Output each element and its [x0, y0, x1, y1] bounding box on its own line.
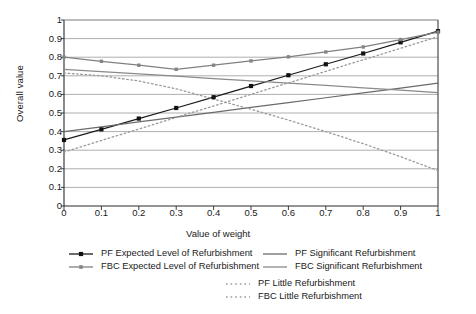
x-tick-label: 0.8: [348, 208, 378, 218]
legend-label: FBC Significant Refurbishment: [295, 261, 422, 272]
series-marker: [249, 59, 252, 62]
chart-container: Overall value Value of weight 00.10.20.3…: [0, 0, 476, 314]
series-marker: [286, 73, 290, 77]
y-tick-label: 0.7: [26, 71, 62, 81]
legend-swatch-icon: [225, 279, 251, 289]
series-marker: [175, 68, 178, 71]
x-tick-label: 0.1: [86, 208, 116, 218]
legend-item[interactable]: FBC Little Refurbishment: [225, 291, 362, 302]
series-marker: [137, 116, 141, 120]
y-tick-label: 0.3: [26, 145, 62, 155]
series-line: [64, 83, 438, 131]
legend-label: FBC Little Refurbishment: [258, 291, 362, 302]
y-tick-label: 0.1: [26, 182, 62, 192]
series-line: [64, 69, 438, 92]
legend-swatch-icon: [225, 292, 251, 302]
series-marker: [99, 127, 103, 131]
y-tick-label: 1: [26, 15, 62, 25]
x-axis-tick-labels: 00.10.20.30.40.50.60.70.80.91: [0, 208, 476, 222]
series-marker: [212, 95, 216, 99]
legend-label: PF Little Refurbishment: [258, 278, 355, 289]
legend-item[interactable]: PF Significant Refurbishment: [262, 248, 415, 259]
series-marker: [100, 60, 103, 63]
legend-label: PF Expected Level of Refurbishment: [101, 248, 252, 259]
legend-swatch-icon: [68, 249, 94, 259]
series-marker: [174, 106, 178, 110]
x-tick-label: 0.9: [386, 208, 416, 218]
series-line: [64, 32, 438, 69]
y-tick-label: 0.8: [26, 52, 62, 62]
series-marker: [62, 56, 65, 59]
legend-swatch-icon: [262, 249, 288, 259]
y-axis-tick-labels: 00.10.20.30.40.50.60.70.80.91: [22, 0, 62, 200]
legend-item[interactable]: PF Little Refurbishment: [225, 278, 355, 289]
series-marker: [362, 45, 365, 48]
y-tick-label: 0.2: [26, 164, 62, 174]
x-tick-label: 0.3: [161, 208, 191, 218]
series-marker: [287, 55, 290, 58]
y-tick-label: 0.5: [26, 108, 62, 118]
series-marker: [62, 138, 66, 142]
chart-legend: PF Expected Level of RefurbishmentFBC Ex…: [0, 248, 476, 310]
legend-swatch-icon: [262, 262, 288, 272]
series-marker: [324, 50, 327, 53]
x-tick-label: 0.7: [311, 208, 341, 218]
series-marker: [249, 84, 253, 88]
x-axis-title: Value of weight: [186, 228, 250, 239]
y-tick-label: 0.4: [26, 127, 62, 137]
series-marker: [399, 38, 402, 41]
x-tick-label: 0.2: [124, 208, 154, 218]
legend-label: FBC Expected Level of Refurbishment: [101, 261, 259, 272]
x-tick-label: 0.5: [236, 208, 266, 218]
series-marker: [137, 63, 140, 66]
legend-item[interactable]: FBC Significant Refurbishment: [262, 261, 422, 272]
series-marker: [361, 51, 365, 55]
series-marker: [324, 62, 328, 66]
y-tick-label: 0.9: [26, 34, 62, 44]
series-marker: [436, 30, 439, 33]
legend-label: PF Significant Refurbishment: [295, 248, 415, 259]
legend-item[interactable]: FBC Expected Level of Refurbishment: [68, 261, 259, 272]
x-tick-label: 0.4: [199, 208, 229, 218]
legend-swatch-icon: [68, 262, 94, 272]
x-tick-label: 0.6: [273, 208, 303, 218]
x-tick-label: 1: [423, 208, 453, 218]
series-marker: [212, 63, 215, 66]
y-tick-label: 0.6: [26, 89, 62, 99]
legend-item[interactable]: PF Expected Level of Refurbishment: [68, 248, 252, 259]
x-tick-label: 0: [49, 208, 79, 218]
